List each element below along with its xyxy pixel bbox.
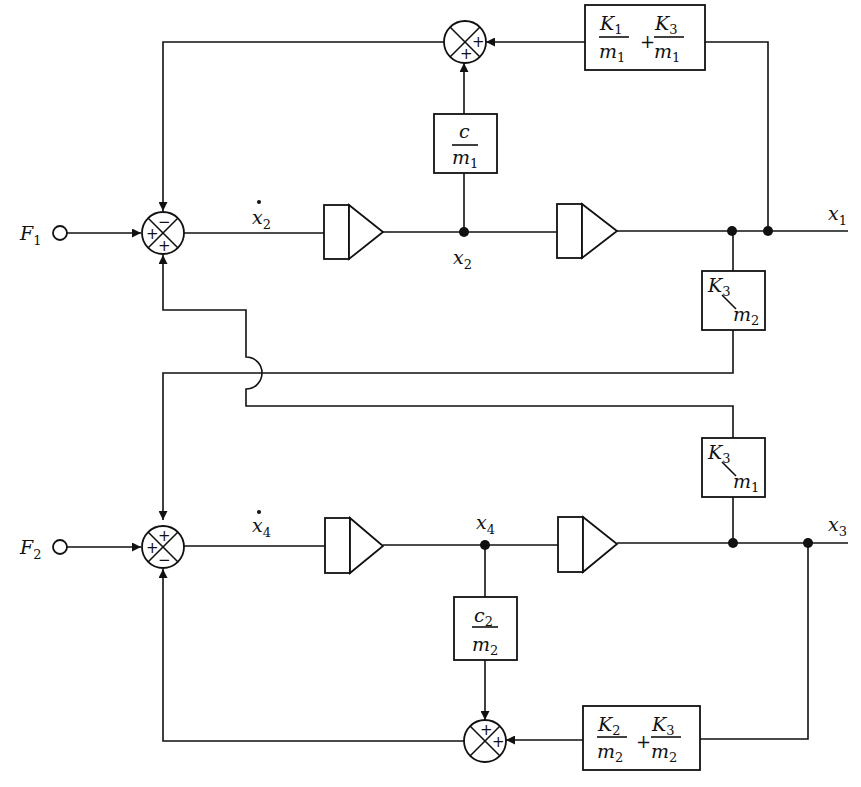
block-diagram: F1 − + + x2 x2 c m1 + + — [0, 0, 861, 787]
integrator-1 — [324, 205, 383, 259]
svg-text:+: + — [158, 237, 171, 255]
gain-block-k3-over-m1: K3 m1 — [702, 438, 765, 497]
gain-block-k1-k3-over-m1: K1 m1 + K3 m1 — [585, 5, 705, 70]
svg-text:F1: F1 — [19, 222, 41, 248]
label-x2dot: x2 — [252, 206, 271, 232]
label-x2: x2 — [453, 246, 472, 272]
integrator-3 — [325, 518, 383, 573]
svg-text:F2: F2 — [19, 536, 41, 562]
svg-text:+: + — [146, 539, 159, 557]
summing-junction-2: + + − — [142, 526, 184, 569]
integrator-2 — [557, 204, 617, 258]
junction-x1-a — [727, 226, 737, 236]
derivative-dot-x4 — [257, 510, 261, 514]
output-x1: x1 — [828, 202, 847, 228]
svg-text:+: + — [460, 45, 473, 63]
svg-text:−: − — [158, 213, 171, 231]
svg-text:+: + — [492, 733, 505, 751]
input-f1: F1 — [19, 222, 67, 248]
wire-coupling-to-sum1 — [163, 255, 733, 438]
gain-block-k2-k3-over-m2: K2 m2 + K3 m2 — [583, 706, 700, 770]
junction-x3-b — [803, 538, 813, 548]
input-terminal-f1 — [53, 226, 67, 240]
junction-x1-b — [763, 226, 773, 236]
gain-block-k3-over-m2: K3 m2 — [702, 271, 765, 330]
label-x4dot: x4 — [252, 514, 271, 540]
summing-junction-bottom-feedback: + + — [464, 720, 506, 762]
gain-block-c-over-m1: c m1 — [434, 114, 497, 173]
svg-text:+: + — [480, 721, 493, 739]
gain-block-c2-over-m2: c2 m2 — [454, 597, 517, 660]
label-x4: x4 — [476, 511, 495, 537]
summing-junction-top-feedback: + + — [444, 21, 486, 63]
svg-text:+: + — [640, 31, 655, 52]
svg-text:+: + — [636, 731, 651, 752]
input-f2: F2 — [19, 536, 67, 562]
junction-x3-a — [728, 538, 738, 548]
integrator-4 — [558, 517, 617, 572]
wire-coupling-to-sum2 — [163, 330, 733, 520]
svg-text:−: − — [158, 551, 171, 569]
derivative-dot-x2 — [257, 200, 261, 204]
svg-text:c: c — [459, 120, 470, 142]
summing-junction-1: − + + — [142, 212, 184, 255]
wire-top-feedback — [163, 42, 444, 211]
svg-text:+: + — [472, 33, 485, 51]
output-x3: x3 — [828, 513, 847, 539]
svg-text:+: + — [158, 527, 171, 545]
input-terminal-f2 — [53, 540, 67, 554]
wire-bottom-feedback — [163, 569, 464, 741]
svg-text:+: + — [146, 225, 159, 243]
